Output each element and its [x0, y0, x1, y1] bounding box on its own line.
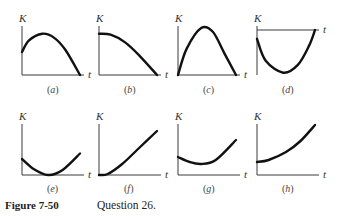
curve-d	[257, 30, 315, 73]
panel-a: Kt(a)	[18, 12, 92, 96]
panel-h: Kt(h)	[253, 110, 327, 195]
panel-b: Kt(b)	[95, 12, 169, 96]
figure-caption-label: Figure 7-50	[5, 199, 59, 211]
y-axis-label: K	[253, 12, 262, 24]
curve-g	[178, 140, 236, 164]
x-axis-label: t	[165, 68, 169, 80]
panel-label-g: (g)	[203, 183, 215, 195]
panel-d: Kt(d)	[253, 12, 327, 96]
panel-label-f: (f)	[124, 183, 133, 195]
panel-label-a: (a)	[47, 84, 59, 96]
x-axis-label: t	[244, 168, 248, 180]
panel-label-b: (b)	[124, 84, 136, 96]
y-axis-label: K	[18, 12, 27, 24]
x-axis-label: t	[323, 168, 327, 180]
curve-h	[257, 125, 315, 162]
curve-a	[22, 34, 80, 75]
panel-label-e: (e)	[47, 183, 58, 195]
panel-f: Kt(f)	[95, 110, 169, 195]
curve-f	[99, 131, 157, 175]
panel-c: Kt(c)	[174, 12, 248, 96]
y-axis-label: K	[174, 110, 183, 122]
y-axis-label: K	[95, 110, 104, 122]
y-axis-label: K	[18, 110, 27, 122]
x-axis-label: t	[88, 168, 92, 180]
x-axis-label: t	[244, 68, 248, 80]
y-axis-label: K	[95, 12, 104, 24]
panel-g: Kt(g)	[174, 110, 248, 195]
curve-e	[22, 154, 80, 176]
curve-c	[178, 27, 236, 75]
panel-e: Kt(e)	[18, 110, 92, 195]
panel-label-h: (h)	[282, 183, 294, 195]
x-axis-label: t	[88, 68, 92, 80]
curve-b	[99, 34, 157, 75]
x-axis-label: t	[165, 168, 169, 180]
y-axis-label: K	[174, 12, 183, 24]
panel-label-c: (c)	[203, 84, 214, 96]
x-axis-label: t	[323, 23, 327, 35]
y-axis-label: K	[253, 110, 262, 122]
figure-7-50: Kt(a)Kt(b)Kt(c)Kt(d)Kt(e)Kt(f)Kt(g)Kt(h)…	[0, 0, 339, 218]
panel-label-d: (d)	[282, 84, 294, 96]
figure-caption-text: Question 26.	[97, 199, 156, 211]
